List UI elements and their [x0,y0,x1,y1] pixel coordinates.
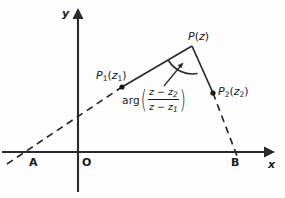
angle-arc [169,61,198,74]
node-label-B: B [231,157,239,168]
arg-denominator-text: z − z [149,101,173,112]
segment-P2-to-B-dashed [213,93,237,156]
point-label-P-name: P [188,30,195,43]
origin-label: O [82,157,91,168]
arg-function-name: arg [122,94,140,106]
arg-denominator-subscript: 1 [173,105,178,114]
point-label-P1-close: ) [122,69,126,82]
point-label-P-close: ) [205,30,209,43]
arg-numerator-text: z − z [149,86,173,97]
angle-expression: arg ( z − z2 z − z1 ) [122,86,187,114]
arg-numerator-subscript: 2 [173,90,178,99]
node-label-A: A [29,157,38,168]
point-label-P2-name: P [218,85,225,98]
point-label-P1-name: P [96,69,103,82]
arg-fraction: z − z2 z − z1 [148,86,179,114]
y-axis-label: y [62,8,69,19]
point-label-P2-close: ) [244,85,248,98]
complex-plane-diagram: y x O A B P1(z1) P(z) P2(z2) arg ( z − z… [0,0,285,198]
x-axis-arrowhead [264,147,275,158]
arg-numerator: z − z2 [148,86,179,99]
point-label-P1: P1(z1) [96,70,127,82]
y-axis-arrowhead [73,8,84,19]
point-marker-P2 [210,90,215,95]
segment-P-to-P2-solid [192,46,213,93]
x-axis-label: x [268,159,275,170]
arg-denominator: z − z1 [148,101,179,114]
point-label-P: P(z) [188,31,209,42]
angle-pointer-shaft [164,66,181,86]
point-label-P2: P2(z2) [218,86,249,98]
